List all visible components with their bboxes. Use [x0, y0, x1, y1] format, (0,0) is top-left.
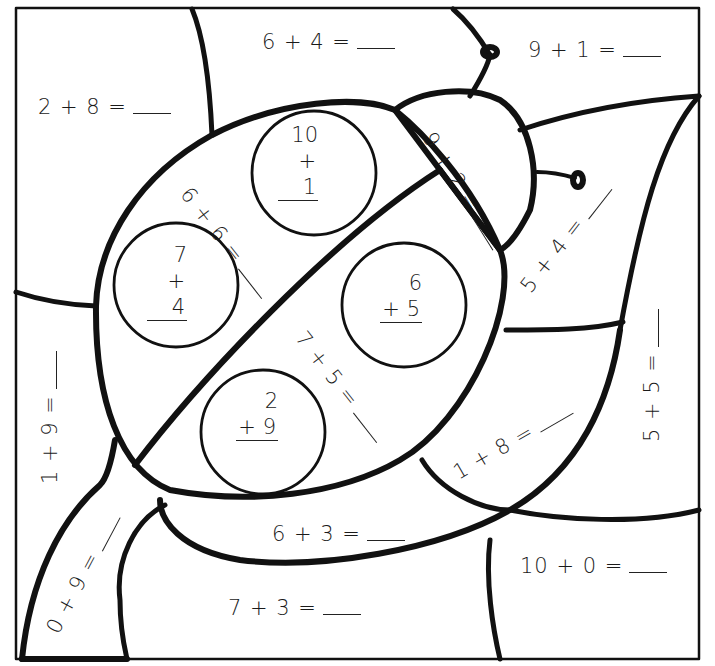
- equation-10-plus-0[interactable]: 10 + 0 =: [520, 554, 667, 578]
- answer-blank[interactable]: [357, 34, 395, 49]
- equation-6-plus-4[interactable]: 6 + 4 =: [262, 30, 395, 54]
- answer-blank[interactable]: [133, 99, 171, 114]
- answer-blank[interactable]: [323, 600, 361, 615]
- answer-blank[interactable]: [623, 42, 661, 57]
- spot-problem-7-plus-4[interactable]: 7+ 4: [147, 242, 187, 321]
- spot-problem-10-plus-1[interactable]: 10+ 1: [278, 122, 318, 201]
- answer-blank[interactable]: [629, 558, 667, 573]
- equation-7-plus-3[interactable]: 7 + 3 =: [228, 596, 361, 620]
- answer-blank[interactable]: [644, 309, 659, 347]
- equation-5-plus-5[interactable]: 5 + 5 =: [640, 309, 664, 442]
- equation-1-plus-9[interactable]: 1 + 9 =: [38, 351, 62, 484]
- spot-problem-6-plus-5[interactable]: 6+ 5: [380, 270, 422, 323]
- equation-2-plus-8[interactable]: 2 + 8 =: [38, 95, 171, 119]
- equation-9-plus-1[interactable]: 9 + 1 =: [528, 38, 661, 62]
- answer-blank[interactable]: [367, 526, 405, 541]
- equation-6-plus-3[interactable]: 6 + 3 =: [272, 522, 405, 546]
- answer-blank[interactable]: [42, 351, 57, 389]
- spot-problem-2-plus-9[interactable]: 2+ 9: [236, 388, 278, 441]
